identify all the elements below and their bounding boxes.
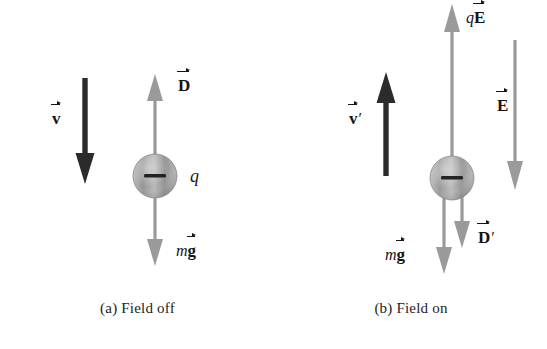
vector-label-weight-b: mg (385, 245, 405, 263)
panel-b-vectors (275, 0, 547, 300)
vector-prefix-weight-b: m (385, 246, 397, 263)
charged-sphere-b (430, 156, 474, 200)
caption-field-on: (b) Field on (275, 300, 547, 317)
vector-label-velocity-b: v′ (349, 109, 361, 127)
vector-symbol-weight-b: g (397, 245, 406, 264)
vector-prime-velocity-b: ′ (358, 110, 362, 127)
vector-arrow-velocity-b (377, 72, 396, 176)
vector-symbol-drag-a: D (178, 76, 190, 95)
vector-prefix-electric-force-b: q (466, 9, 474, 26)
vector-prefix-weight-a: m (176, 242, 188, 259)
vector-label-electric-field-b: E (497, 96, 508, 114)
vector-symbol-velocity-a: v (52, 109, 61, 128)
vector-symbol-electric-field-b: E (497, 96, 508, 115)
vector-arrow-electric-field-b (507, 40, 523, 190)
vector-symbol-electric-force-b: E (474, 8, 485, 27)
panel-a-vectors (0, 0, 275, 300)
vector-label-drag-b: D′ (478, 228, 494, 246)
charged-sphere-a (133, 154, 177, 198)
vector-symbol-drag-b: D (478, 228, 490, 247)
vector-arrow-velocity-a (76, 78, 95, 184)
vector-arrow-electric-force-b (444, 4, 460, 178)
vector-symbol-velocity-b: v (349, 109, 358, 128)
panel-field-off: v D mg q (a) Field off (0, 0, 275, 349)
physics-figure-terminal-velocity: v D mg q (a) Field off (0, 0, 547, 349)
vector-label-drag-a: D (178, 76, 190, 94)
vector-symbol-weight-a: g (188, 241, 197, 260)
vector-label-velocity-a: v (52, 109, 61, 127)
vector-prime-drag-b: ′ (490, 229, 494, 246)
vector-label-electric-force-b: qE (466, 8, 485, 26)
vector-label-weight-a: mg (176, 241, 196, 259)
caption-field-off: (a) Field off (0, 300, 275, 317)
panel-field-on: qE v′ mg D′ E (b) Field on (275, 0, 547, 349)
charge-label-a: q (190, 166, 199, 187)
